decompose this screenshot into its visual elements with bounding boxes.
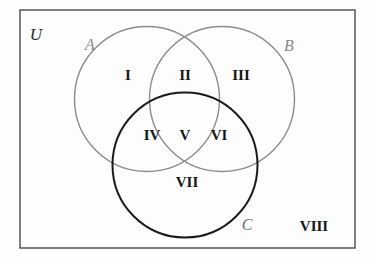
region-label-v: V	[180, 127, 191, 143]
set-circle-c	[113, 93, 258, 238]
venn-diagram-canvas: U A B C I II III IV V VI VII VIII	[0, 0, 375, 263]
set-circle-b	[150, 27, 295, 172]
region-label-viii: VIII	[300, 218, 329, 234]
region-label-vi: VI	[211, 127, 228, 143]
region-label-iii: III	[232, 67, 250, 83]
region-label-iv: IV	[144, 127, 161, 143]
set-label-c: C	[242, 216, 253, 233]
set-label-a: A	[84, 36, 95, 53]
region-label-vii: VII	[176, 174, 199, 190]
region-label-i: I	[125, 67, 131, 83]
set-circle-a	[75, 27, 220, 172]
region-label-ii: II	[179, 67, 191, 83]
universal-set-label: U	[30, 25, 44, 44]
set-label-b: B	[284, 37, 294, 54]
venn-diagram-figure: U A B C I II III IV V VI VII VIII	[0, 0, 375, 263]
